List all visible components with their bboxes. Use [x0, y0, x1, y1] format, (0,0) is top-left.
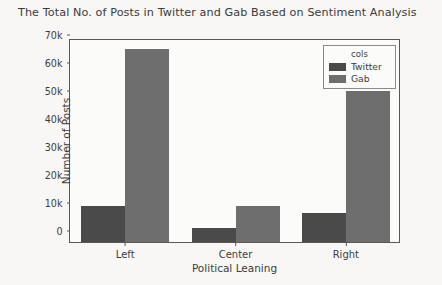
y-axis-tick-label: 40k	[45, 114, 67, 125]
legend: cols TwitterGab	[323, 45, 396, 89]
bar-gab-right	[346, 91, 390, 242]
x-axis-tick-label: Left	[116, 249, 135, 260]
legend-label: Twitter	[351, 61, 382, 72]
y-axis-tick-label: 60k	[45, 58, 67, 69]
legend-item-gab: Gab	[329, 73, 390, 84]
legend-swatch-twitter	[329, 63, 346, 71]
x-axis-tick-label: Right	[333, 249, 359, 260]
plot-area: Number of Posts 010k20k30k40k50k60k70k L…	[69, 39, 400, 243]
x-axis-tick-mark	[125, 242, 126, 246]
y-axis-tick-label: 0	[56, 226, 66, 237]
bar-gab-left	[125, 49, 169, 242]
x-axis-tick-mark	[235, 242, 236, 246]
y-axis-tick-label: 50k	[45, 86, 67, 97]
y-axis-tick-label: 20k	[45, 170, 67, 181]
legend-swatch-gab	[329, 75, 346, 83]
y-axis-tick: 70k	[45, 30, 70, 41]
y-axis-tick-label: 10k	[45, 198, 67, 209]
x-axis-tick-label: Center	[219, 249, 253, 260]
y-axis-tick-label: 70k	[45, 30, 67, 41]
y-axis-tick-label: 30k	[45, 142, 67, 153]
bar-twitter-left	[81, 206, 125, 242]
y-axis-tick: 0	[56, 226, 70, 237]
x-axis-tick: Right	[333, 242, 359, 260]
legend-entries: TwitterGab	[329, 61, 390, 84]
legend-item-twitter: Twitter	[329, 61, 390, 72]
chart-figure: The Total No. of Posts in Twitter and Ga…	[0, 0, 442, 285]
x-axis-tick-mark	[345, 242, 346, 246]
x-axis-tick: Left	[116, 242, 135, 260]
y-axis-tick: 50k	[45, 86, 70, 97]
bar-twitter-center	[192, 228, 236, 242]
y-axis-tick: 40k	[45, 114, 70, 125]
legend-label: Gab	[351, 73, 370, 84]
y-axis-tick-mark	[67, 35, 71, 36]
y-axis-tick: 30k	[45, 142, 70, 153]
bar-twitter-right	[302, 213, 346, 242]
bar-gab-center	[236, 206, 280, 242]
y-axis-tick: 20k	[45, 170, 70, 181]
legend-title: cols	[329, 49, 390, 59]
x-axis-tick: Center	[219, 242, 253, 260]
chart-title: The Total No. of Posts in Twitter and Ga…	[18, 6, 438, 19]
y-axis-tick: 10k	[45, 198, 70, 209]
y-axis-tick: 60k	[45, 58, 70, 69]
x-axis-label: Political Leaning	[192, 262, 277, 274]
